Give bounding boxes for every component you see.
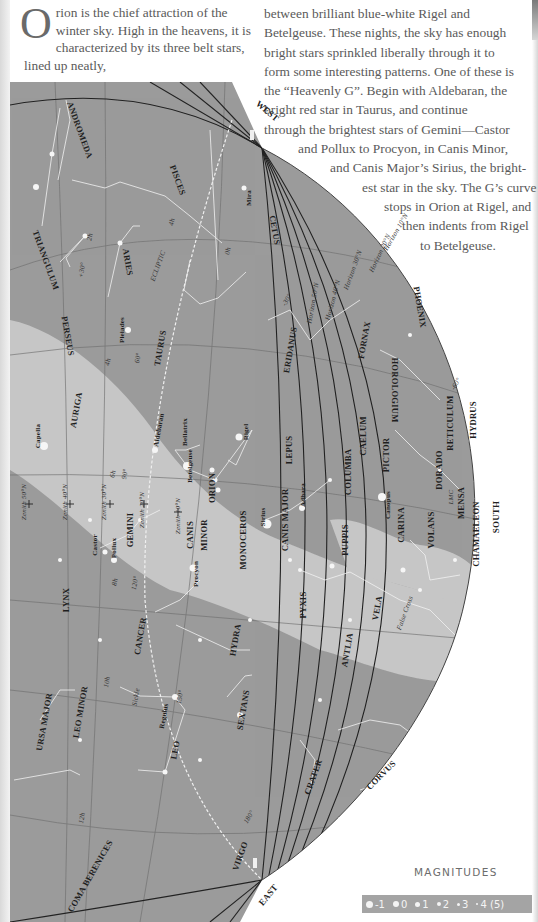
constellation-label: LYNX [61, 588, 71, 612]
magnitude-item: 4 (5) [476, 899, 504, 910]
magnitude-label: -1 [375, 899, 385, 910]
chart-annotation: 4h [103, 358, 112, 367]
star-label: Capella [34, 424, 42, 448]
constellation-label: COLUMBA [343, 449, 353, 495]
star-dot-icon [393, 901, 399, 907]
magnitude-label: 2 [443, 899, 449, 910]
star-dot-icon [457, 903, 460, 906]
chart-annotation: Zenith 40°N [61, 484, 69, 520]
magnitude-item: -1 [366, 899, 385, 910]
constellation-label: LEPUS [284, 436, 294, 465]
magnitude-item: 2 [437, 899, 449, 910]
constellation-label: HYDRUS [468, 401, 478, 439]
magnitude-legend: -101234 (5) [362, 895, 532, 913]
chart-annotation: 8h [110, 578, 119, 587]
constellation-label: RETICULUM [445, 395, 455, 450]
magnitude-label: 0 [401, 899, 407, 910]
constellation-label: VOLANS [426, 512, 436, 549]
star-dot-icon [476, 903, 478, 905]
star-label: Bellatrix [181, 418, 189, 446]
chart-annotation: Zenith 10°N [174, 498, 182, 534]
constellation-label: MONOCEROS [238, 510, 248, 569]
star-label: Adhara [299, 483, 307, 507]
constellation-label: CAELUM [358, 416, 368, 455]
chart-annotation: Zenith 30°N [100, 484, 108, 520]
direction-south: SOUTH [491, 501, 501, 534]
star-label: Procyon [192, 561, 200, 587]
constellation-label: CHAMAELEON [471, 501, 481, 567]
chart-annotation: 0h [223, 247, 232, 256]
constellation-label: CARINA [396, 507, 406, 543]
star-label: Betelgeuse [186, 449, 194, 483]
chart-annotation: Zenith 20°N [138, 492, 146, 528]
chart-annotation: LMC [447, 490, 455, 505]
constellation-label: HOROLOGIUM [390, 357, 400, 422]
star-label: Pollux [110, 538, 118, 558]
constellation-label: MINOR [199, 519, 209, 551]
constellation-label: PICTOR [381, 438, 391, 472]
star-dot-icon [366, 901, 373, 908]
legend-title: MAGNITUDES [414, 866, 498, 878]
chart-annotation: 2h [85, 233, 94, 242]
magnitude-label: 4 (5) [480, 899, 504, 910]
star-label: Sirius [259, 508, 267, 527]
direction-arrow-east [253, 858, 257, 868]
star-dot-icon [415, 902, 420, 907]
constellation-label: CANIS MAJOR [280, 489, 290, 552]
constellation-label: PYXIS [298, 592, 308, 619]
constellation-label: DORADO [434, 450, 444, 489]
magnitude-label: 1 [422, 899, 428, 910]
star-label: Mira [245, 190, 253, 206]
magnitude-label: 3 [462, 899, 468, 910]
star-label: Pleiades [118, 317, 126, 343]
star-label: Rigel [242, 424, 250, 441]
star-label: Castor [91, 534, 99, 555]
direction-arrow-west [250, 130, 254, 140]
magnitude-item: 0 [393, 899, 407, 910]
constellation-label: MENSA [456, 487, 466, 519]
constellation-label: ORION [207, 473, 217, 503]
magnitude-item: 3 [457, 899, 468, 910]
chart-annotation: 6h [108, 470, 117, 479]
magnitude-item: 1 [415, 899, 428, 910]
constellation-label: GEMINI [125, 513, 135, 548]
constellation-label: PUPPIS [340, 524, 350, 555]
chart-annotation: Zenith 50°N [20, 484, 28, 520]
chart-annotation: 4h [167, 218, 176, 227]
star-label: Canopus [384, 491, 392, 519]
star-dot-icon [437, 902, 441, 906]
constellation-label: CANIS [185, 521, 195, 549]
